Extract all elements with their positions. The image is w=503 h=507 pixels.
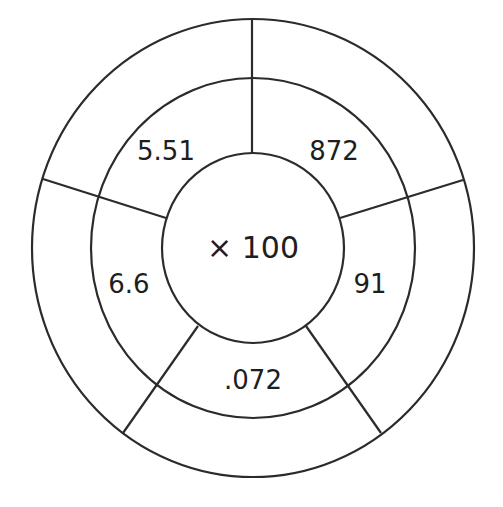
number-upper-left: 5.51 [137,136,195,166]
number-left: 6.6 [108,269,149,299]
number-upper-right: 872 [309,136,359,166]
number-right: 91 [353,269,386,299]
spoke-lower-right [306,326,381,433]
number-bottom: .072 [224,365,282,395]
spoke-upper-right [340,180,463,218]
multiplication-wheel: × 100 5.51 872 91 .072 6.6 [0,0,503,507]
spoke-upper-left [43,179,166,218]
spoke-lower-left [123,326,198,433]
center-operation: × 100 [207,230,299,265]
